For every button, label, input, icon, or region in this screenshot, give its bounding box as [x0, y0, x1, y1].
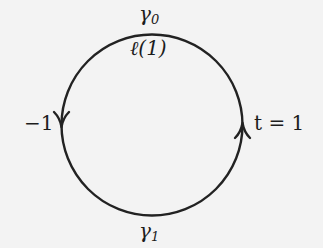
minus-one-label: −1 — [24, 113, 53, 133]
ell-of-one-label: ℓ(1) — [130, 38, 167, 58]
diagram-canvas: γ0 ℓ(1) −1 t = 1 γ1 — [0, 0, 323, 248]
unit-circle-loop — [62, 35, 243, 216]
t-equals-one-label: t = 1 — [254, 113, 304, 133]
gamma-0-label: γ0 — [139, 4, 159, 26]
gamma-1-label: γ1 — [139, 221, 159, 243]
